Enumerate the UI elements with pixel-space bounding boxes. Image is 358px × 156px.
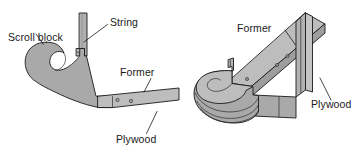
screw-hole-r1	[286, 54, 289, 57]
diagram-canvas: Scroll block String Former Plywood	[0, 0, 358, 156]
lower-block	[253, 95, 296, 118]
screw-hole-r3	[245, 77, 248, 80]
label-former: Former	[120, 66, 155, 78]
label-plywood: Plywood	[116, 133, 156, 145]
label-scroll-block: Scroll block	[8, 31, 64, 43]
technical-diagram: Scroll block String Former Plywood	[0, 0, 358, 156]
plywood-panel-face	[306, 13, 313, 92]
label-string: String	[110, 16, 138, 28]
screw-hole-r2	[275, 63, 278, 66]
lower-block-face	[253, 95, 296, 118]
screw-hole-1	[116, 98, 119, 101]
screw-hole-2	[129, 99, 132, 102]
label-former-right: Former	[237, 22, 272, 34]
